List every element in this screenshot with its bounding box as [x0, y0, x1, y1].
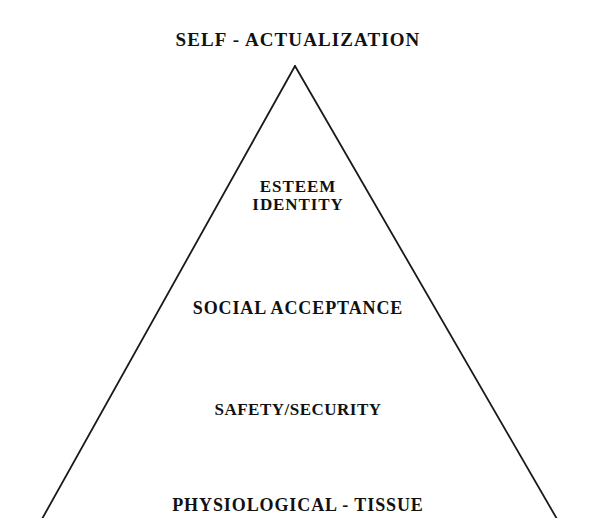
pyramid-level-label-text: PHYSIOLOGICAL - TISSUE: [172, 495, 424, 515]
triangle-legs: [42, 66, 557, 518]
pyramid-level-label-text: SOCIAL ACCEPTANCE: [193, 298, 404, 318]
pyramid-level-label-text: SAFETY/SECURITY: [214, 400, 381, 419]
pyramid-level-self-actualization: SELF - ACTUALIZATION: [0, 30, 596, 51]
triangle-right-edge: [295, 66, 557, 518]
pyramid-level-label-text: SELF - ACTUALIZATION: [176, 29, 421, 50]
pyramid-diagram: SELF - ACTUALIZATION ESTEEM IDENTITY SOC…: [0, 0, 596, 518]
pyramid-outline-graphic: [0, 0, 596, 518]
pyramid-level-label-text-line1: ESTEEM: [260, 177, 336, 196]
pyramid-level-label-text-line2: IDENTITY: [0, 196, 596, 214]
pyramid-level-esteem-identity: ESTEEM IDENTITY: [0, 178, 596, 215]
triangle-left-edge: [42, 66, 295, 518]
pyramid-level-social-acceptance: SOCIAL ACCEPTANCE: [0, 299, 596, 318]
pyramid-level-safety-security: SAFETY/SECURITY: [0, 401, 596, 419]
pyramid-level-physiological-tissue: PHYSIOLOGICAL - TISSUE: [0, 496, 596, 515]
